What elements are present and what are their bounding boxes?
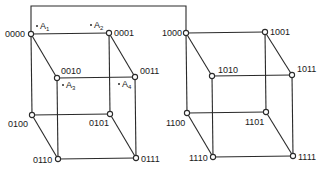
right-cube-edges [186,32,293,157]
label-0101: 0101 [89,118,109,128]
node-1101 [263,109,268,114]
label-0111: 0111 [141,154,160,164]
annotation-a2: A2 [90,20,104,31]
hypercube-diagram: 0000 0001 0010 0011 0100 0101 0110 0111 … [0,0,323,175]
right-cube-nodes [183,29,295,159]
label-1101: 1101 [245,117,264,127]
left-cube-labels: 0000 0001 0010 0011 0100 0101 0110 0111 [5,28,160,165]
node-1100 [184,110,189,115]
annotation-a1: A1 [36,21,50,32]
label-0110: 0110 [33,155,52,165]
annotation-a4: A4 [118,79,132,90]
node-0010 [54,75,59,80]
label-1111: 1111 [298,152,316,162]
node-1010 [209,73,214,78]
label-0011: 0011 [140,66,159,76]
svg-text:A2: A2 [94,20,104,31]
node-0110 [55,156,60,161]
label-0010: 0010 [61,66,81,76]
node-1001 [262,29,267,34]
node-1000 [183,30,188,35]
label-1100: 1100 [166,118,185,128]
node-0000 [28,31,33,36]
node-0101 [107,111,112,116]
node-1110 [210,154,215,159]
left-cube-nodes [28,30,138,161]
label-1001: 1001 [270,27,290,37]
label-1010: 1010 [218,65,238,75]
label-1000: 1000 [162,28,182,38]
label-0100: 0100 [8,119,28,129]
label-1110: 1110 [189,153,208,163]
node-0100 [29,112,34,117]
svg-text:A4: A4 [122,79,132,90]
svg-text:A3: A3 [66,80,76,91]
annotation-a3: A3 [62,80,76,91]
label-1011: 1011 [297,64,316,74]
node-1111 [290,153,295,158]
label-0000: 0000 [5,29,25,39]
node-0001 [106,30,111,35]
node-0111 [133,155,138,160]
node-1011 [289,72,294,77]
node-0011 [132,74,137,79]
svg-text:A1: A1 [40,21,50,32]
left-cube-edges [31,33,136,159]
label-0001: 0001 [114,28,134,38]
